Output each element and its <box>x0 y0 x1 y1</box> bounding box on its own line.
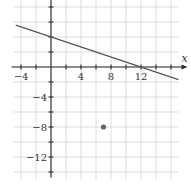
x-tick-label: −4 <box>14 71 29 82</box>
x-axis-label: x <box>182 52 189 65</box>
y-tick-label: −12 <box>26 152 47 163</box>
x-tick-label: 4 <box>78 71 84 82</box>
y-tick-label: −4 <box>32 92 47 103</box>
data-series <box>16 25 179 129</box>
data-point <box>101 124 106 129</box>
x-tick-label: 12 <box>135 71 148 82</box>
y-axis-label: y <box>55 0 63 1</box>
coordinate-plane: −44812−4−8−12 x y <box>0 0 191 187</box>
y-tick-label: −8 <box>32 122 47 133</box>
x-axis-arrow-icon <box>182 65 188 70</box>
x-tick-label: 8 <box>108 71 114 82</box>
tick-labels: −44812−4−8−12 <box>14 71 148 163</box>
